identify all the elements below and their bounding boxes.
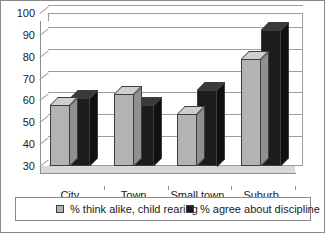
legend-item-series-1[interactable]: % think alike, child rearing <box>56 203 198 215</box>
y-tick-label-60: 60 <box>5 95 35 106</box>
bar-side-face <box>281 22 289 166</box>
y-tick-label-70: 70 <box>5 74 35 85</box>
x-tick-mark-4 <box>295 186 296 190</box>
bar-suburb-series-1 <box>241 59 261 166</box>
bar-side-face <box>154 97 162 166</box>
y-tick-label-90: 90 <box>5 30 35 41</box>
plot-area: CityTownSmall townSuburb <box>40 13 303 174</box>
y-tick-label-100: 100 <box>5 8 35 19</box>
bar-front-face <box>114 94 134 166</box>
gridline-connector-100 <box>33 0 49 14</box>
chart-figure: CityTownSmall townSuburb 304050607080901… <box>0 0 325 233</box>
bar-side-face <box>134 86 142 166</box>
chart-legend: % think alike, child rearing % agree abo… <box>15 197 311 221</box>
bar-side-face <box>197 106 205 166</box>
bar-front-face <box>241 59 261 166</box>
bar-side-face <box>217 82 225 167</box>
y-tick-label-80: 80 <box>5 52 35 63</box>
bar-small-town-series-1 <box>177 114 197 166</box>
bar-side-face <box>70 97 78 166</box>
legend-label-series-1: % think alike, child rearing <box>70 203 198 215</box>
bar-side-face <box>261 51 269 166</box>
bar-side-face <box>90 90 98 166</box>
series-2-swatch-icon <box>186 205 194 213</box>
bar-town-series-1 <box>114 94 134 166</box>
legend-label-series-2: % agree about discipline <box>200 203 320 215</box>
y-tick-label-40: 40 <box>5 139 35 150</box>
y-tick-label-30: 30 <box>5 161 35 172</box>
bar-front-face <box>177 114 197 166</box>
bar-city-series-1 <box>50 105 70 166</box>
y-tick-label-50: 50 <box>5 117 35 128</box>
legend-item-series-2[interactable]: % agree about discipline <box>186 203 320 215</box>
x-axis-line <box>40 173 295 174</box>
gridline-100 <box>48 5 303 6</box>
series-1-swatch-icon <box>56 205 64 213</box>
bar-front-face <box>50 105 70 166</box>
